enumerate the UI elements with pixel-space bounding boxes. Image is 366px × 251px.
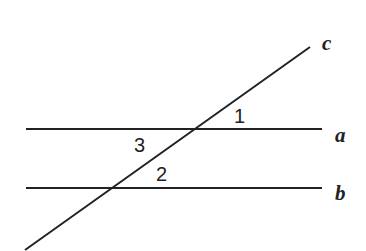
parallel-lines-diagram: c a b 1 2 3 — [0, 0, 366, 251]
label-c: c — [322, 31, 332, 55]
angle-1-label: 1 — [234, 105, 245, 127]
label-a: a — [335, 123, 346, 147]
label-b: b — [335, 181, 346, 205]
line-c — [25, 47, 310, 250]
angle-3-label: 3 — [134, 134, 145, 156]
angle-2-label: 2 — [156, 163, 167, 185]
